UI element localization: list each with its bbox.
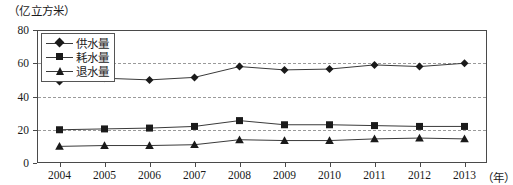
data-point-耗水量-2010 — [326, 121, 333, 128]
series-line-0 — [60, 63, 465, 81]
data-point-耗水量-2009 — [281, 121, 288, 128]
data-point-供水量-2009 — [281, 66, 289, 74]
data-point-耗水量-2007 — [191, 123, 198, 130]
chart-legend: 供水量 耗水量 退水量 — [41, 33, 115, 82]
diamond-marker-icon — [46, 37, 73, 49]
data-point-供水量-2013 — [461, 59, 469, 67]
data-point-耗水量-2012 — [416, 123, 423, 130]
triangle-marker-icon — [46, 65, 73, 77]
data-point-耗水量-2008 — [236, 117, 243, 124]
legend-item-0: 供水量 — [46, 36, 109, 50]
series-退水量 — [55, 134, 469, 150]
legend-label-2: 退水量 — [76, 63, 109, 79]
data-point-供水量-2011 — [371, 61, 379, 69]
data-point-耗水量-2011 — [371, 122, 378, 129]
data-point-耗水量-2006 — [146, 125, 153, 132]
data-point-耗水量-2005 — [101, 125, 108, 132]
series-line-1 — [60, 121, 465, 130]
data-point-供水量-2006 — [146, 76, 154, 84]
data-point-供水量-2012 — [416, 63, 424, 71]
series-供水量 — [56, 59, 469, 85]
data-point-耗水量-2004 — [56, 126, 63, 133]
data-point-退水量-2012 — [415, 134, 424, 142]
data-point-供水量-2007 — [191, 73, 199, 81]
data-point-耗水量-2013 — [461, 123, 468, 130]
data-point-供水量-2008 — [236, 63, 244, 71]
series-耗水量 — [56, 117, 468, 133]
series-line-2 — [60, 138, 465, 146]
square-marker-icon — [46, 51, 73, 63]
data-point-供水量-2010 — [326, 65, 334, 73]
legend-item-1: 耗水量 — [46, 50, 109, 64]
legend-item-2: 退水量 — [46, 64, 109, 78]
data-point-退水量-2008 — [235, 135, 244, 143]
